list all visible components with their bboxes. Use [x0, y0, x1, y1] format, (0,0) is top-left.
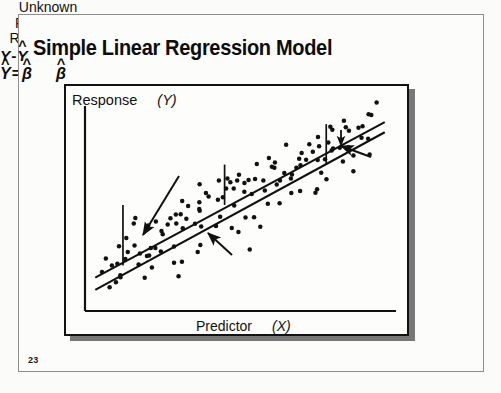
- y-axis-label: Response(Y): [72, 92, 177, 108]
- slide: Simple Linear Regression Model: [0, 0, 501, 393]
- equation-hat-y: ^: [0, 57, 11, 72]
- residual-minus: -: [11, 47, 16, 64]
- x-axis-label: Predictor(X): [196, 318, 291, 334]
- residual-hat: ^: [17, 39, 27, 53]
- y-axis-label-text: Response: [72, 92, 137, 108]
- equation-hat-beta1: ^: [56, 57, 66, 72]
- equation-hat-beta0: ^: [22, 57, 32, 72]
- y-axis-variable: (Y): [157, 92, 176, 108]
- slide-number: 23: [28, 355, 38, 365]
- page-title: Simple Linear Regression Model: [33, 36, 405, 64]
- chart-box: [64, 84, 409, 336]
- x-axis-label-text: Predictor: [196, 318, 252, 334]
- x-axis-variable: (X): [272, 318, 291, 334]
